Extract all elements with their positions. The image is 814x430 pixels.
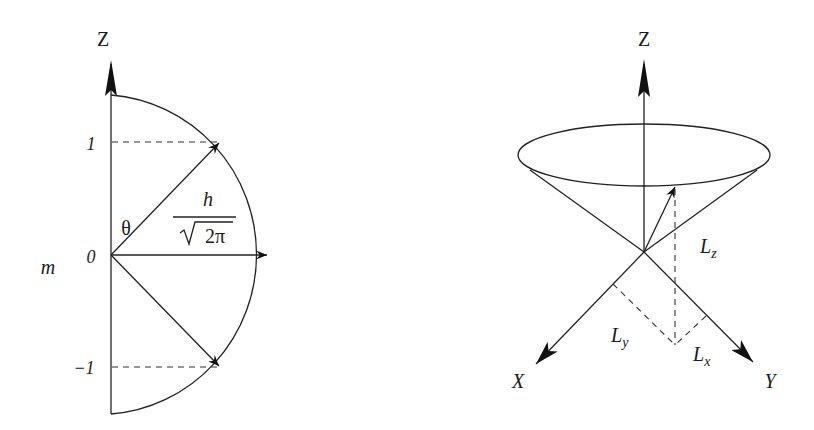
left-z-label: Z: [97, 28, 109, 50]
theta-label: θ: [121, 217, 131, 239]
x-axis-label: X: [511, 370, 525, 392]
lx-label: Lx: [692, 343, 711, 369]
level-label-1: 1: [87, 134, 96, 154]
fraction-denominator: 2π: [205, 225, 225, 247]
right-z-label: Z: [638, 28, 650, 50]
magnitude-fraction: h 2π: [173, 188, 236, 247]
vector-m-minus1: [111, 255, 219, 366]
y-axis-label: Y: [764, 370, 777, 392]
angular-momentum-vector: [644, 187, 675, 252]
diagram-canvas: Z 1 0 −1 m θ h 2π Z X: [0, 0, 814, 430]
ly-label: Ly: [610, 324, 629, 350]
level-label-minus1: −1: [73, 358, 94, 378]
lz-label: Lz: [699, 235, 717, 261]
lx-projection-dashed-line: [675, 316, 706, 345]
level-label-0: 0: [87, 247, 96, 267]
fraction-numerator: h: [203, 188, 213, 210]
right-diagram: Z X Y Lz Ly Lx: [511, 28, 778, 392]
m-label: m: [41, 256, 55, 278]
left-diagram: Z 1 0 −1 m θ h 2π: [41, 28, 267, 414]
